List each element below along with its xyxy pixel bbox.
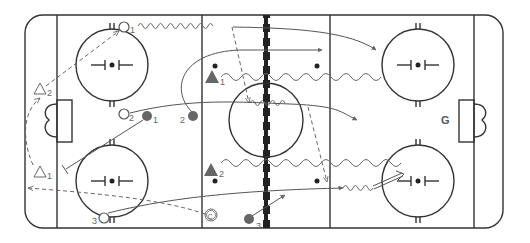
neutral-dot [213,64,218,69]
skate-wavy-path [221,74,381,81]
svg-text:2: 2 [219,169,224,179]
pass-path [26,98,40,165]
left-net [45,100,72,142]
skate-wavy-path [221,160,401,167]
skate-path [130,102,357,120]
skate-path [233,27,376,50]
svg-text:C: C [208,213,213,220]
svg-text:2: 2 [129,113,134,123]
offense-player-3: 3 [92,213,109,226]
svg-text:3: 3 [92,216,97,226]
shot-arrow [373,171,404,189]
pass-path [28,188,205,214]
faceoff-circle-left-top [76,23,148,107]
coach-marker: C [205,209,217,221]
svg-text:1: 1 [130,25,135,35]
outline-triangle-1: 1 [34,166,52,181]
svg-text:1: 1 [47,171,52,181]
forward-triangle-2: 2 [204,163,224,179]
offense-player-2: 2 [119,109,134,123]
svg-text:1: 1 [153,115,158,125]
svg-text:G: G [441,114,450,126]
svg-text:2: 2 [180,115,185,125]
right-net [459,100,486,142]
pass-path [232,27,249,103]
svg-text:2: 2 [47,88,52,98]
faceoff-circle-right-top [382,23,454,107]
svg-text:1: 1 [220,77,225,87]
outline-triangle-2: 2 [34,83,52,98]
skate-puck-path [343,186,373,191]
goalie-marker: G [441,114,450,126]
forward-triangle-1: 1 [205,70,225,87]
skate-path [108,188,343,213]
defense-player-1: 1 [142,111,158,125]
faceoff-circle-left-bottom [76,139,148,223]
svg-text:3: 3 [256,221,261,231]
offense-player-1: 1 [119,22,135,35]
hockey-rink-diagram: 1 2 3 1 2 3 1 2 1 2 C G [0,0,530,243]
defense-player-2: 2 [180,111,198,125]
neutral-dot [315,179,320,184]
pass-path [308,107,327,182]
neutral-dot [213,179,218,184]
center-red-line [263,15,270,228]
neutral-dot [315,64,320,69]
